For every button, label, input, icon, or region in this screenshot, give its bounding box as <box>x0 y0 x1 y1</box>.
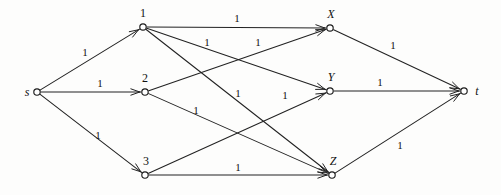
flow-network-figure: 1111111111111s123XYZt <box>0 0 501 195</box>
edges-layer <box>40 27 460 175</box>
node-n2[interactable] <box>142 89 148 95</box>
edge-capacity-label-3-Z: 1 <box>235 162 241 173</box>
edge-capacity-label-Z-t: 1 <box>397 140 403 151</box>
edge-s-1 <box>40 29 139 90</box>
graph-canvas <box>0 0 501 195</box>
node-X[interactable] <box>327 25 333 31</box>
edge-Z-t <box>335 93 460 173</box>
edge-s-3 <box>40 94 142 172</box>
edge-capacity-label-1-X: 1 <box>234 13 240 24</box>
edge-capacity-label-s-3: 1 <box>95 130 101 141</box>
edge-capacity-label-3-Y: 1 <box>282 90 288 101</box>
edge-capacity-label-s-2: 1 <box>97 78 103 89</box>
edge-capacity-label-s-1: 1 <box>82 47 88 58</box>
edge-capacity-label-1-Y: 1 <box>204 37 210 48</box>
edge-capacity-label-X-t: 1 <box>390 40 396 51</box>
node-n3[interactable] <box>142 172 148 178</box>
edge-1-Z <box>146 29 329 172</box>
arrowhead-Z-t <box>450 94 459 101</box>
node-label-n2: 2 <box>142 72 148 84</box>
node-label-X: X <box>327 8 334 20</box>
edge-capacity-label-2-Z: 1 <box>193 105 199 116</box>
node-s[interactable] <box>34 89 40 95</box>
node-label-s: s <box>25 86 30 98</box>
edge-capacity-label-2-X: 1 <box>255 37 261 48</box>
edge-1-X <box>147 27 326 28</box>
edge-capacity-label-Y-t: 1 <box>377 77 383 88</box>
nodes-layer <box>34 24 467 178</box>
node-label-t: t <box>475 85 478 97</box>
edge-capacity-label-1-Z: 1 <box>235 88 241 99</box>
edge-X-t <box>334 30 461 90</box>
arrowhead-s-1 <box>129 30 138 37</box>
node-Y[interactable] <box>327 88 333 94</box>
node-t[interactable] <box>461 88 467 94</box>
node-n1[interactable] <box>140 24 146 30</box>
arrowheads-layer <box>129 25 459 178</box>
node-label-Y: Y <box>328 71 335 83</box>
node-Z[interactable] <box>329 172 335 178</box>
node-label-n3: 3 <box>143 155 149 167</box>
node-label-Z: Z <box>330 155 337 167</box>
node-label-n1: 1 <box>140 7 146 19</box>
edge-1-Y <box>147 28 326 89</box>
